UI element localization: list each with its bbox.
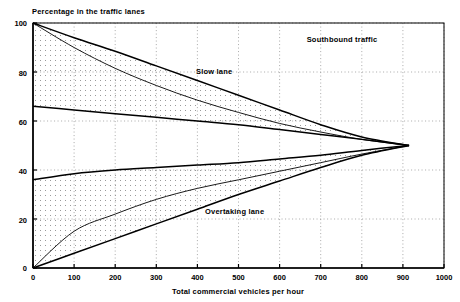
- x-tick-label-600: 600: [273, 273, 286, 282]
- y-tick-label-40: 40: [19, 167, 27, 176]
- x-tick-label-1000: 1000: [436, 273, 453, 282]
- x-tick-label-0: 0: [31, 273, 35, 282]
- overtaking-lane-label: Overtaking lane: [205, 207, 264, 216]
- x-tick-label-300: 300: [150, 273, 163, 282]
- x-tick-label-200: 200: [109, 273, 122, 282]
- y-tick-label-0: 0: [23, 264, 27, 273]
- x-tick-label-100: 100: [68, 273, 81, 282]
- slow-lane-label: Slow lane: [196, 67, 232, 76]
- x-tick-label-500: 500: [232, 273, 245, 282]
- traffic-lane-chart: 100 80 60 40 20 0 0 100 200 300 400 500 …: [0, 0, 460, 302]
- y-tick-label-80: 80: [19, 69, 27, 78]
- y-tick-label-100: 100: [14, 19, 27, 28]
- x-axis-title: Total commercial vehicles per hour: [172, 287, 304, 296]
- chart-svg: 100 80 60 40 20 0 0 100 200 300 400 500 …: [0, 0, 460, 302]
- x-tick-label-900: 900: [397, 273, 410, 282]
- southbound-traffic-label: Southbound traffic: [307, 35, 378, 44]
- x-tick-label-400: 400: [191, 273, 204, 282]
- x-tick-label-700: 700: [314, 273, 327, 282]
- y-axis-title: Percentage in the traffic lanes: [32, 7, 145, 16]
- y-tick-label-20: 20: [19, 216, 27, 225]
- x-tick-label-800: 800: [356, 273, 369, 282]
- y-tick-label-60: 60: [19, 118, 27, 127]
